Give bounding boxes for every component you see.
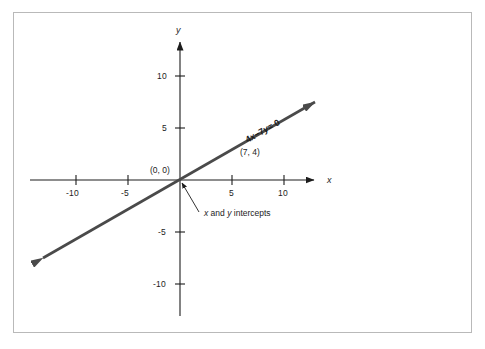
coordinate-plane <box>0 0 485 349</box>
intercepts-note-and: and <box>208 208 227 218</box>
x-tick-label-neg10: -10 <box>66 189 79 198</box>
x-tick-label-neg5: -5 <box>121 189 129 198</box>
origin-point-label: (0, 0) <box>150 166 170 175</box>
y-tick-label-neg10: -10 <box>153 280 166 289</box>
x-tick-label-10: 10 <box>278 189 288 198</box>
intercepts-note-suffix: intercepts <box>231 208 270 218</box>
y-tick-label-10: 10 <box>157 72 167 81</box>
y-axis-label: y <box>176 26 181 35</box>
y-tick-label-neg5: -5 <box>158 228 166 237</box>
y-tick-label-5: 5 <box>162 124 167 133</box>
x-axis-label: x <box>327 176 332 185</box>
intercepts-note: x and y intercepts <box>204 209 271 218</box>
x-tick-label-5: 5 <box>229 189 234 198</box>
point-label-7-4: (7, 4) <box>240 148 260 157</box>
intercepts-leader-line <box>182 183 199 212</box>
figure-page: x y -10 -5 5 10 10 5 -5 -10 (0, 0) (7, 4… <box>0 0 485 349</box>
